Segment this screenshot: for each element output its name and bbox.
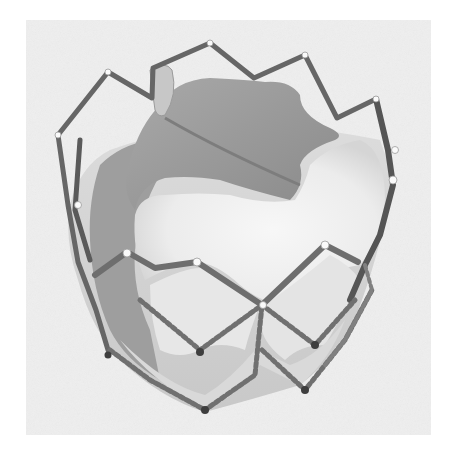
- stent-node: [392, 147, 399, 154]
- stent-node: [373, 96, 379, 102]
- stent-node: [193, 258, 201, 266]
- stent-node: [123, 249, 131, 257]
- stent-node: [105, 69, 111, 75]
- heart-valve-illustration: [0, 0, 457, 455]
- suture-dot: [196, 348, 204, 356]
- suture-dot: [311, 341, 319, 349]
- suture-dot: [105, 352, 112, 359]
- stent-node: [260, 302, 267, 309]
- stent-node: [302, 52, 308, 58]
- suture-dot: [201, 406, 209, 414]
- stent-node: [321, 241, 329, 249]
- stent-node: [55, 132, 61, 138]
- stent-node: [389, 176, 397, 184]
- stent-node: [75, 202, 82, 209]
- suture-dot: [301, 386, 309, 394]
- stent-node: [207, 40, 213, 46]
